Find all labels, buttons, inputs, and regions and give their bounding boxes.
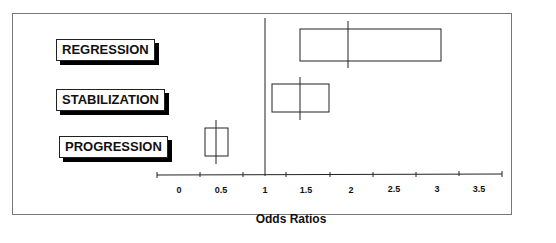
x-axis	[157, 171, 502, 178]
x-tick-label: 2.5	[388, 184, 401, 194]
x-tick-label: 0	[176, 185, 181, 195]
plot-area	[0, 0, 556, 243]
x-tick-label: 2	[348, 185, 353, 195]
box-regression	[300, 21, 441, 68]
x-tick-label: 3.5	[473, 184, 486, 194]
box-stabilization	[272, 77, 329, 120]
box-progression	[205, 120, 228, 164]
x-axis-title: Odds Ratios	[256, 212, 327, 226]
x-tick-label: 3	[434, 184, 439, 194]
x-tick-label: 0.5	[215, 185, 228, 195]
x-tick-label: 1	[262, 185, 267, 195]
x-tick-label: 1.5	[300, 185, 313, 195]
